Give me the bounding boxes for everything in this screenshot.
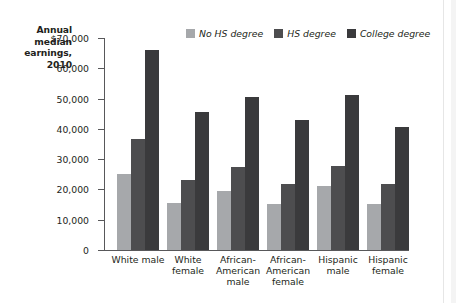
bar	[317, 186, 331, 251]
bar	[345, 95, 359, 250]
y-axis-tick-label: 10,000	[56, 214, 89, 225]
bar	[381, 184, 395, 250]
chart-figure: Annual median earnings, 2010 No HS degre…	[0, 0, 456, 303]
bar	[281, 184, 295, 250]
bar	[245, 97, 259, 250]
bar	[131, 139, 145, 250]
bar	[267, 204, 281, 250]
x-axis-line	[104, 250, 409, 251]
y-axis-tick: 10,000	[98, 220, 104, 221]
y-axis-tick-label: 0	[83, 245, 89, 256]
y-axis-tick: 40,000	[98, 129, 104, 130]
bar-group: Hispanic male	[317, 38, 359, 250]
y-axis-tick-label: 30,000	[56, 154, 89, 165]
bar	[145, 50, 159, 250]
chart-title-line-3: earnings,	[2, 47, 72, 59]
bar-group: Hispanic female	[367, 38, 409, 250]
bar	[231, 167, 245, 250]
y-axis-tick-label: 50,000	[56, 93, 89, 104]
y-axis-tick-label: 20,000	[56, 184, 89, 195]
bar-group: White female	[167, 38, 209, 250]
page-edge-shadow	[451, 0, 456, 303]
bar	[395, 127, 409, 250]
y-axis-tick-label: 60,000	[56, 63, 89, 74]
bar	[367, 204, 381, 250]
y-axis-tick: $70,000	[98, 38, 104, 39]
y-axis-line	[104, 38, 105, 251]
plot-area: $70,00060,00050,00040,00030,00020,00010,…	[104, 30, 409, 251]
y-axis-tick: 30,000	[98, 159, 104, 160]
bar	[331, 166, 345, 250]
bar	[195, 112, 209, 250]
page-edge-line	[443, 0, 444, 303]
y-axis-tick-label: $70,000	[51, 33, 89, 44]
bar-group: African-​American female	[267, 38, 309, 250]
bar	[217, 191, 231, 250]
y-axis-tick: 0	[98, 250, 104, 251]
y-axis-tick: 50,000	[98, 99, 104, 100]
y-axis-tick: 20,000	[98, 189, 104, 190]
y-axis-tick-label: 40,000	[56, 123, 89, 134]
bar-group: African-​American male	[217, 38, 259, 250]
y-axis-tick: 60,000	[98, 68, 104, 69]
bar-group: White male	[117, 38, 159, 250]
bar	[167, 203, 181, 250]
x-axis-category-label: Hispanic female	[357, 255, 419, 277]
bar	[181, 180, 195, 250]
bar	[117, 174, 131, 250]
bar	[295, 120, 309, 250]
